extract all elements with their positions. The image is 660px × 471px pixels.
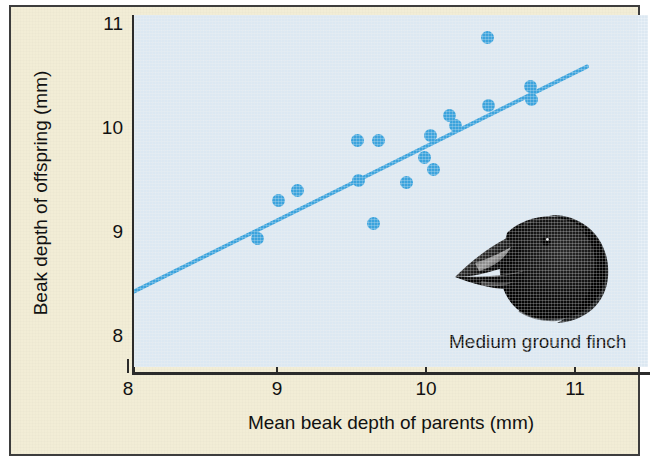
figure-plate: 891011 Beak depth of offspring (mm) 8910… xyxy=(9,5,640,456)
y-axis-title: Beak depth of offspring (mm) xyxy=(30,23,52,363)
scatter-point xyxy=(524,80,537,93)
x-axis-title: Mean beak depth of parents (mm) xyxy=(134,412,648,434)
scatter-point xyxy=(372,134,385,147)
scatter-point xyxy=(482,99,495,112)
y-axis-tick-label: 8 xyxy=(51,326,123,345)
y-axis-tick-label: 9 xyxy=(51,222,123,241)
scatter-point xyxy=(418,151,431,164)
x-axis-tick xyxy=(127,359,129,373)
x-axis-tick-label: 8 xyxy=(108,379,148,398)
finch-caption-label: Medium ground finch xyxy=(449,331,626,353)
x-axis-line xyxy=(132,372,650,375)
scatter-point xyxy=(351,134,364,147)
x-axis-tick-label: 9 xyxy=(257,379,297,398)
scatter-point xyxy=(400,176,413,189)
plot-area: Medium ground finch xyxy=(134,15,648,367)
y-axis-tick-label: 10 xyxy=(51,118,123,137)
y-axis-tick-label: 11 xyxy=(51,14,123,33)
x-axis-tick-label: 10 xyxy=(406,379,446,398)
scatter-point xyxy=(251,232,264,245)
scatter-point xyxy=(481,31,494,44)
medium-ground-finch-photo xyxy=(445,205,615,335)
x-axis-tick-label: 11 xyxy=(555,379,595,398)
scatter-point xyxy=(424,129,437,142)
scatter-point xyxy=(352,174,365,187)
finch-heritability-figure: 891011 Beak depth of offspring (mm) 8910… xyxy=(0,0,660,471)
scatter-point xyxy=(427,163,440,176)
